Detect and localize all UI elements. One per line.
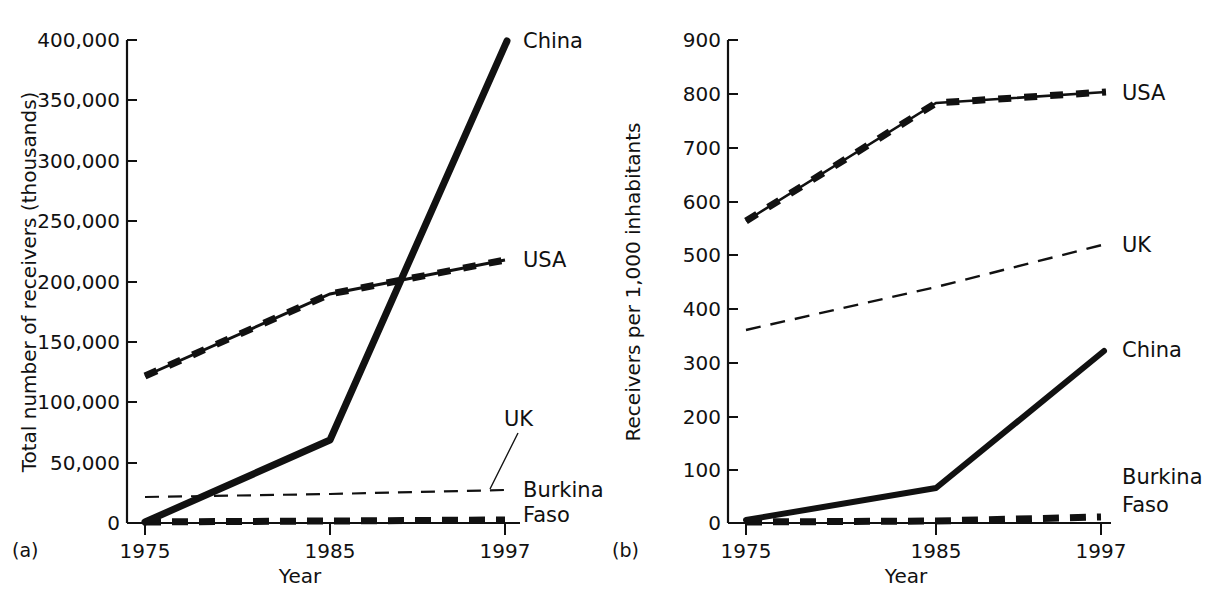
x-tick-label-a-1997: 1997 (480, 539, 531, 563)
y-tick-label-b-100: 100 (683, 458, 721, 482)
leader-line-a-uk (490, 433, 518, 489)
series-label-b-uk: UK (1122, 233, 1152, 257)
y-ticks-a (127, 40, 137, 523)
y-tick-label-b-300: 300 (683, 351, 721, 375)
series-label-a-uk: UK (504, 407, 534, 431)
series-label-b-usa: USA (1122, 81, 1166, 105)
y-tick-label-b-700: 700 (683, 136, 721, 160)
series-label-a-china: China (523, 29, 583, 53)
chart-a-svg: 400,000 350,000 300,000 250,000 200,000 … (0, 0, 606, 591)
x-tick-label-b-1975: 1975 (721, 539, 772, 563)
series-label-a-faso: Faso (523, 503, 570, 527)
y-tick-label-b-900: 900 (683, 28, 721, 52)
x-ticks-b (746, 523, 1101, 535)
x-tick-label-a-1975: 1975 (120, 539, 171, 563)
panel-letter-a: (a) (12, 539, 38, 561)
y-tick-label-b-200: 200 (683, 405, 721, 429)
y-tick-label-a-400000: 400,000 (37, 28, 120, 52)
y-tick-label-a-350000: 350,000 (37, 88, 120, 112)
series-line-a-china (145, 41, 507, 522)
y-tick-label-b-400: 400 (683, 297, 721, 321)
series-line-a-usa-dash (145, 260, 505, 376)
series-label-b-faso: Faso (1122, 493, 1169, 517)
series-line-a-usa-base (145, 260, 505, 376)
series-line-b-burkina-faso (746, 517, 1101, 522)
x-tick-label-a-1985: 1985 (305, 539, 356, 563)
y-tick-label-a-150000: 150,000 (37, 330, 120, 354)
x-tick-label-b-1997: 1997 (1076, 539, 1127, 563)
x-axis-title-a: Year (278, 564, 322, 588)
y-tick-label-a-50000: 50,000 (50, 451, 120, 475)
y-tick-label-a-300000: 300,000 (37, 149, 120, 173)
y-tick-label-a-200000: 200,000 (37, 270, 120, 294)
y-axis-title-a: Total number of receivers (thousands) (17, 92, 41, 474)
chart-panel-b: 900 800 700 600 500 400 300 200 100 0 19… (606, 0, 1212, 591)
y-tick-label-b-0: 0 (708, 511, 721, 535)
x-axis-title-b: Year (884, 564, 928, 588)
y-tick-label-a-0: 0 (107, 511, 120, 535)
y-axis-title-b: Receivers per 1,000 inhabitants (621, 123, 645, 442)
x-tick-label-b-1985: 1985 (911, 539, 962, 563)
y-ticks-b (728, 40, 738, 523)
panel-letter-b: (b) (612, 539, 639, 561)
y-tick-label-b-600: 600 (683, 190, 721, 214)
x-ticks-a (145, 523, 505, 535)
series-label-a-usa: USA (523, 248, 567, 272)
series-line-b-usa-dash (746, 92, 1106, 221)
series-line-b-china (746, 351, 1104, 520)
y-tick-label-b-500: 500 (683, 243, 721, 267)
series-label-a-burkina: Burkina (523, 478, 604, 502)
series-line-b-uk (746, 244, 1106, 330)
y-tick-label-a-250000: 250,000 (37, 209, 120, 233)
y-tick-label-b-800: 800 (683, 82, 721, 106)
series-label-b-china: China (1122, 338, 1182, 362)
series-label-b-burkina: Burkina (1122, 465, 1203, 489)
chart-panel-a: 400,000 350,000 300,000 250,000 200,000 … (0, 0, 606, 591)
y-tick-label-a-100000: 100,000 (37, 390, 120, 414)
chart-b-svg: 900 800 700 600 500 400 300 200 100 0 19… (606, 0, 1212, 591)
series-line-a-burkina-faso (145, 520, 505, 522)
